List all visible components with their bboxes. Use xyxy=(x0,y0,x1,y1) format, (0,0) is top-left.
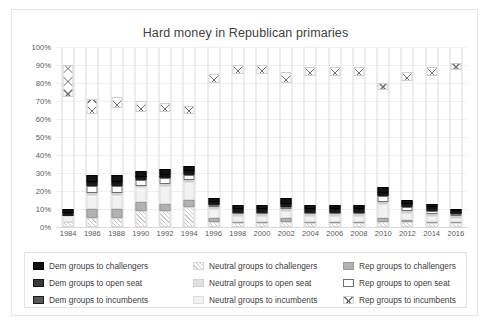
bar-segment-dem-challengers xyxy=(160,169,171,174)
stacked-bar[interactable] xyxy=(255,47,268,227)
bar-segment-dem-open-seat xyxy=(281,203,292,205)
y-axis-tick-label: 60% xyxy=(36,115,51,124)
legend-item-label: Rep groups to incumbents xyxy=(359,295,456,305)
legend-item[interactable]: Neutral groups to incumbents xyxy=(193,292,343,308)
bar-segment-neutral-incumbents xyxy=(353,216,364,221)
stacked-bar[interactable] xyxy=(110,47,123,227)
bar-segment-dem-open-seat xyxy=(256,209,267,211)
bar-segment-dem-incumbents xyxy=(281,205,292,207)
bar-segment-dem-challengers xyxy=(184,166,195,171)
stacked-bar[interactable] xyxy=(425,47,438,227)
legend-item-label: Dem groups to incumbents xyxy=(49,295,148,305)
bar-segment-rep-challengers xyxy=(184,200,195,207)
legend-column-neutral: Neutral groups to challengersNeutral gro… xyxy=(193,258,343,309)
bar-segment-rep-open-seat xyxy=(184,175,195,180)
bar-slot[interactable] xyxy=(153,47,177,227)
bar-segment-neutral-incumbents xyxy=(281,211,292,218)
bar-slot[interactable] xyxy=(104,47,128,227)
stacked-bar[interactable] xyxy=(352,47,365,227)
bar-segment-neutral-open-seat xyxy=(426,214,437,216)
bar-slot[interactable] xyxy=(395,47,419,227)
x-axis-tick-label: 1994 xyxy=(181,229,198,238)
legend-item[interactable]: Neutral groups to open seat xyxy=(193,275,343,291)
chart-legend: Dem groups to challengersDem groups to o… xyxy=(24,252,467,308)
bar-slot[interactable] xyxy=(80,47,104,227)
bar-segment-rep-open-seat xyxy=(329,212,340,214)
x-axis-tick-label: 1992 xyxy=(157,229,174,238)
bar-segment-rep-incumbents xyxy=(353,67,364,76)
y-axis-tick-label: 40% xyxy=(36,151,51,160)
bar-slot[interactable] xyxy=(177,47,201,227)
bar-segment-rep-open-seat xyxy=(305,212,316,214)
bar-segment-dem-incumbents xyxy=(402,205,413,207)
bar-segment-rep-open-seat xyxy=(256,212,267,214)
stacked-bar[interactable] xyxy=(449,47,462,227)
bar-segment-rep-incumbents xyxy=(450,63,461,70)
bar-segment-neutral-incumbents xyxy=(232,216,243,221)
legend-item[interactable]: Dem groups to open seat xyxy=(33,275,193,291)
legend-item[interactable]: Rep groups to challengers xyxy=(343,258,492,274)
stacked-bar[interactable] xyxy=(86,47,99,227)
stacked-bar[interactable] xyxy=(183,47,196,227)
x-axis-tick-label: 2000 xyxy=(254,229,271,238)
bar-slot[interactable] xyxy=(250,47,274,227)
legend-item[interactable]: Neutral groups to challengers xyxy=(193,258,343,274)
bar-segment-dem-challengers xyxy=(232,205,243,209)
bar-slot[interactable] xyxy=(226,47,250,227)
bar-segment-dem-open-seat xyxy=(426,207,437,209)
bar-segment-rep-incumbents xyxy=(305,67,316,76)
y-axis-tick-label: 30% xyxy=(36,169,51,178)
x-axis-tick-label: 1990 xyxy=(132,229,149,238)
x-axis-tick-label: 2008 xyxy=(350,229,367,238)
bar-slot[interactable] xyxy=(323,47,347,227)
stacked-bar[interactable] xyxy=(159,47,172,227)
bar-segment-rep-open-seat xyxy=(426,211,437,215)
bar-segment-dem-challengers xyxy=(111,175,122,182)
bar-segment-rep-challengers xyxy=(135,202,146,211)
bar-slot[interactable] xyxy=(274,47,298,227)
stacked-bar[interactable] xyxy=(134,47,147,227)
bar-segment-rep-incumbents xyxy=(281,72,292,83)
bar-segment-dem-challengers xyxy=(281,198,292,203)
stacked-bar[interactable] xyxy=(304,47,317,227)
bar-segment-dem-challengers xyxy=(208,198,219,202)
x-axis-tick-label: 1984 xyxy=(60,229,77,238)
stacked-bar[interactable] xyxy=(231,47,244,227)
legend-item[interactable]: Dem groups to incumbents xyxy=(33,292,193,308)
stacked-bar[interactable] xyxy=(62,47,75,227)
bar-segment-rep-incumbents xyxy=(232,65,243,74)
bar-slot[interactable] xyxy=(129,47,153,227)
bar-segment-rep-open-seat xyxy=(208,205,219,207)
bar-segment-rep-incumbents xyxy=(426,67,437,76)
stacked-bar[interactable] xyxy=(207,47,220,227)
bar-segment-dem-incumbents xyxy=(426,209,437,211)
bar-segment-rep-challengers xyxy=(426,221,437,223)
bar-segment-dem-open-seat xyxy=(184,171,195,173)
bar-slot[interactable] xyxy=(444,47,468,227)
stacked-bar[interactable] xyxy=(280,47,293,227)
bar-segment-rep-challengers xyxy=(160,204,171,211)
legend-item[interactable]: Dem groups to challengers xyxy=(33,258,193,274)
bar-segment-rep-incumbents xyxy=(329,67,340,76)
bar-slot[interactable] xyxy=(298,47,322,227)
x-axis-tick-label: 1996 xyxy=(205,229,222,238)
bar-slot[interactable] xyxy=(201,47,225,227)
bar-segment-neutral-challengers xyxy=(87,218,98,227)
neutral-open-seat-swatch xyxy=(193,279,204,287)
stacked-bar[interactable] xyxy=(401,47,414,227)
neutral-incumbents-swatch xyxy=(193,296,204,304)
bar-segment-rep-incumbents xyxy=(135,101,146,112)
legend-item[interactable]: Rep groups to open seat xyxy=(343,275,492,291)
bar-slot[interactable] xyxy=(347,47,371,227)
legend-item[interactable]: Rep groups to incumbents xyxy=(343,292,492,308)
bar-slot[interactable] xyxy=(420,47,444,227)
stacked-bar[interactable] xyxy=(377,47,390,227)
bar-segment-dem-open-seat xyxy=(87,182,98,184)
bar-slot[interactable] xyxy=(56,47,80,227)
stacked-bar[interactable] xyxy=(328,47,341,227)
plot-area: 0%10%20%30%40%50%60%70%80%90%100% xyxy=(56,47,468,227)
bar-slot[interactable] xyxy=(371,47,395,227)
bar-segment-neutral-challengers xyxy=(135,211,146,227)
bar-segment-neutral-incumbents xyxy=(329,216,340,221)
bar-segment-rep-incumbents xyxy=(256,65,267,74)
